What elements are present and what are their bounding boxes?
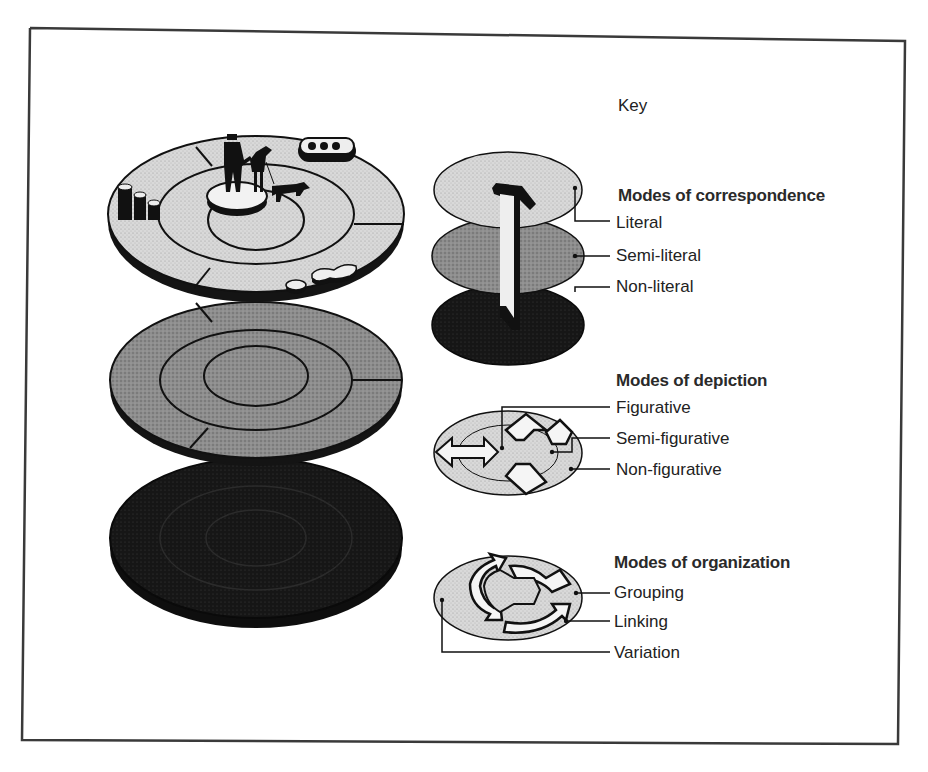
- label-variation: Variation: [614, 643, 680, 663]
- pill-cluster-icon: [298, 138, 356, 162]
- label-semi-literal: Semi-literal: [616, 246, 701, 266]
- bottom-disk: [110, 458, 402, 628]
- label-figurative: Figurative: [616, 398, 691, 418]
- label-grouping: Grouping: [614, 583, 684, 603]
- diagram-canvas: [0, 0, 928, 772]
- section-title-depiction: Modes of depiction: [616, 371, 767, 391]
- organization-key-illustration: [434, 554, 610, 652]
- label-linking: Linking: [614, 612, 668, 632]
- section-title-correspondence: Modes of correspondence: [618, 186, 825, 206]
- label-semi-figurative: Semi-figurative: [616, 429, 729, 449]
- label-non-figurative: Non-figurative: [616, 460, 722, 480]
- section-title-organization: Modes of organization: [614, 553, 790, 573]
- label-non-literal: Non-literal: [616, 277, 693, 297]
- depiction-key-illustration: [434, 407, 610, 495]
- key-title: Key: [618, 96, 647, 116]
- label-literal: Literal: [616, 213, 662, 233]
- correspondence-key-illustration: [432, 152, 610, 365]
- middle-disk: [110, 302, 402, 466]
